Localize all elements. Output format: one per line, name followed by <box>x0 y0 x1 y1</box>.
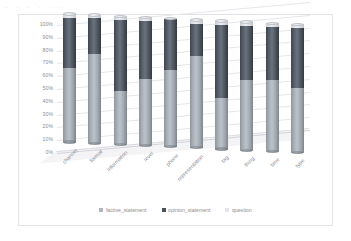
cylinder-top-cap <box>190 18 203 21</box>
bar-segment-factive_statement[interactable] <box>266 80 279 152</box>
bar-segment-factive_statement[interactable] <box>114 91 127 145</box>
cylinder-bottom-cap <box>240 149 253 152</box>
legend-item-opinion_statement[interactable]: opinion_statement <box>162 208 211 213</box>
bar-segment-factive_statement[interactable] <box>88 54 101 144</box>
bar-segment-question[interactable] <box>291 24 304 28</box>
bar-representation[interactable] <box>190 20 203 148</box>
cylinder-bottom-cap <box>114 143 127 146</box>
bar-segment-question[interactable] <box>190 20 203 24</box>
y-axis-tick-label: 60% <box>43 74 53 79</box>
cylinder-top-cap <box>63 12 76 15</box>
cylinder-bottom-cap <box>190 146 203 149</box>
artifact-mark: · <box>60 4 62 10</box>
legend-item-question[interactable]: question <box>225 208 251 213</box>
y-axis-tick-label: 70% <box>43 61 53 66</box>
bar-segment-opinion_statement[interactable] <box>139 21 152 79</box>
bar-segment-question[interactable] <box>240 22 253 26</box>
cylinder-top-cap <box>291 23 304 26</box>
chart-panel[interactable]: 100%90%80%70%60%50%40%30%20%10%0% channe… <box>18 14 333 226</box>
legend-item-factive_statement[interactable]: factive_statement <box>99 208 146 213</box>
cylinder-bottom-cap <box>63 140 76 143</box>
artifact-mark: · <box>6 4 8 10</box>
legend-label: opinion_statement <box>168 208 210 213</box>
bar-segment-factive_statement[interactable] <box>215 98 228 149</box>
legend-swatch-icon <box>162 208 166 212</box>
bar-segment-opinion_statement[interactable] <box>63 18 76 68</box>
y-axis-tick-label: 50% <box>43 86 53 91</box>
bar-time[interactable] <box>266 23 279 151</box>
bar-segment-factive_statement[interactable] <box>139 79 152 146</box>
y-axis-tick-label: 100% <box>40 22 53 27</box>
bar-level[interactable] <box>139 17 152 145</box>
x-axis-label-tag: tag <box>221 155 230 164</box>
cylinder-top-cap <box>88 13 101 16</box>
bar-segment-factive_statement[interactable] <box>240 80 253 150</box>
cylinder-top-cap <box>139 16 152 19</box>
bar-segment-factive_statement[interactable] <box>164 70 177 147</box>
bar-segment-question[interactable] <box>63 14 76 18</box>
y-axis-tick-label: 80% <box>43 48 53 53</box>
cylinder-top-cap <box>114 15 127 18</box>
y-axis-tick-label: 10% <box>43 138 53 143</box>
bar-tag[interactable] <box>215 21 228 149</box>
y-axis-tick-label: 90% <box>43 35 53 40</box>
x-axis-label-representation: representation <box>177 154 205 182</box>
cylinder-top-cap <box>164 17 177 20</box>
bar-segment-factive_statement[interactable] <box>190 56 203 148</box>
x-axis-label-thing: thing <box>243 156 255 168</box>
bar-segment-opinion_statement[interactable] <box>114 20 127 90</box>
bar-segment-question[interactable] <box>139 17 152 21</box>
x-axis-label-type: type <box>295 158 306 169</box>
chart-legend: factive_statementopinion_statementquesti… <box>19 208 332 213</box>
bar-type[interactable] <box>291 24 304 152</box>
bar-segment-opinion_statement[interactable] <box>291 28 304 88</box>
bar-segment-opinion_statement[interactable] <box>215 25 228 98</box>
legend-swatch-icon <box>99 208 103 212</box>
bar-information[interactable] <box>114 16 127 144</box>
cylinder-top-cap <box>240 20 253 23</box>
cylinder-bottom-cap <box>291 151 304 154</box>
y-axis: 100%90%80%70%60%50%40%30%20%10%0% <box>23 25 55 153</box>
cylinder-bottom-cap <box>139 144 152 147</box>
bar-segment-question[interactable] <box>215 21 228 25</box>
x-axis-category-labels: channelformatinformationlevelphonerepres… <box>57 155 310 207</box>
legend-label: factive_statement <box>106 208 147 213</box>
bar-segment-question[interactable] <box>88 15 101 18</box>
cylinder-bottom-cap <box>215 147 228 150</box>
bar-phone[interactable] <box>164 19 177 147</box>
bar-segment-question[interactable] <box>266 23 279 27</box>
bar-segment-factive_statement[interactable] <box>63 68 76 142</box>
artifact-mark: · <box>39 4 41 10</box>
y-axis-tick-label: 40% <box>43 99 53 104</box>
cylinder-top-cap <box>266 22 279 25</box>
bar-segment-factive_statement[interactable] <box>291 88 304 152</box>
artifact-mark: · <box>17 4 19 10</box>
x-axis-label-phone: phone <box>165 153 179 167</box>
bar-segment-question[interactable] <box>114 16 127 20</box>
bar-segment-opinion_statement[interactable] <box>164 19 177 70</box>
y-axis-tick-label: 30% <box>43 112 53 117</box>
artifact-mark: · <box>50 4 52 10</box>
x-axis-label-time: time <box>270 157 281 168</box>
artifact-mark: · <box>28 4 30 10</box>
bar-series-group <box>57 25 310 153</box>
bar-segment-opinion_statement[interactable] <box>266 27 279 79</box>
cylinder-top-cap <box>215 19 228 22</box>
cylinder-bottom-cap <box>88 142 101 145</box>
cylinder-bottom-cap <box>266 150 279 153</box>
bar-segment-opinion_statement[interactable] <box>240 26 253 80</box>
legend-swatch-icon <box>225 208 229 212</box>
legend-label: question <box>232 208 252 213</box>
bar-segment-opinion_statement[interactable] <box>190 24 203 56</box>
cylinder-bottom-cap <box>164 145 177 148</box>
bar-segment-opinion_statement[interactable] <box>88 18 101 54</box>
bar-format[interactable] <box>88 15 101 143</box>
bar-channel[interactable] <box>63 14 76 142</box>
bar-thing[interactable] <box>240 22 253 150</box>
y-axis-tick-label: 20% <box>43 125 53 130</box>
plot-area: 100%90%80%70%60%50%40%30%20%10%0% <box>57 25 310 153</box>
